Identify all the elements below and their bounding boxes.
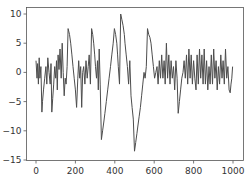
y-tick-label: 5 bbox=[16, 38, 22, 48]
x-tick-label: 800 bbox=[185, 166, 202, 176]
line-chart: −15−10−50510 02004006008001000 bbox=[0, 0, 251, 185]
y-tick-label: 0 bbox=[16, 67, 22, 77]
y-tick-label: −10 bbox=[3, 126, 22, 136]
plot-background bbox=[27, 8, 244, 161]
x-tick-label: 600 bbox=[146, 166, 163, 176]
x-axis: 02004006008001000 bbox=[33, 161, 245, 176]
y-tick-label: −15 bbox=[3, 155, 22, 165]
x-tick-label: 400 bbox=[106, 166, 123, 176]
y-tick-label: −5 bbox=[8, 97, 21, 107]
y-axis: −15−10−50510 bbox=[3, 9, 27, 165]
x-tick-label: 1000 bbox=[222, 166, 245, 176]
y-tick-label: 10 bbox=[10, 9, 22, 19]
x-tick-label: 0 bbox=[33, 166, 39, 176]
x-tick-label: 200 bbox=[67, 166, 84, 176]
